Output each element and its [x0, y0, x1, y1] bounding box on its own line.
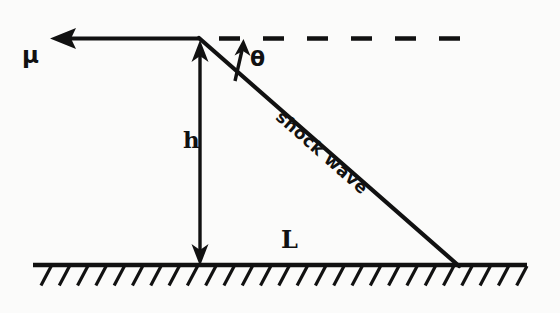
ground-hatch-mark [297, 266, 307, 285]
ground-hatch-mark [498, 266, 508, 285]
ground-hatch-mark [443, 266, 453, 285]
ground-hatch-mark [334, 266, 344, 285]
ground-hatch-mark [132, 266, 142, 285]
ground-hatch-mark [169, 266, 179, 285]
ground-hatch-mark [242, 266, 252, 285]
ground-hatch-mark [114, 266, 124, 285]
ground-hatch-mark [224, 266, 234, 285]
ground-hatch-mark [370, 266, 380, 285]
ground-hatch-mark [480, 266, 490, 285]
ground-hatch-mark [352, 266, 362, 285]
height-label: h [183, 128, 200, 151]
flow-velocity-arrow [50, 28, 200, 49]
ground-hatch-mark [206, 266, 216, 285]
ground-hatch-mark [425, 266, 435, 285]
ground-hatch-mark [151, 266, 161, 285]
ground-hatch-mark [41, 266, 51, 285]
ground-hatch-mark [96, 266, 106, 285]
ground-hatch-mark [78, 266, 88, 285]
ground-hatch-mark [407, 266, 417, 285]
ground-hatch-mark [517, 266, 527, 285]
ground-hatch-mark [462, 266, 472, 285]
height-dimension-arrow [192, 40, 209, 266]
ground-hatch-mark [279, 266, 289, 285]
ground-hatch-mark [59, 266, 69, 285]
ground-hatch-mark [261, 266, 271, 285]
length-label: L [281, 228, 298, 252]
diagram-canvas [0, 0, 560, 313]
ground-hatch-group [41, 266, 527, 285]
velocity-label: μ [22, 44, 39, 67]
shock-wave-diagram: μ θ h L shock wave [0, 0, 560, 313]
ground-hatch-mark [187, 266, 197, 285]
angle-label: θ [250, 48, 265, 70]
ground-hatch-mark [315, 266, 325, 285]
ground-hatch-mark [389, 266, 399, 285]
